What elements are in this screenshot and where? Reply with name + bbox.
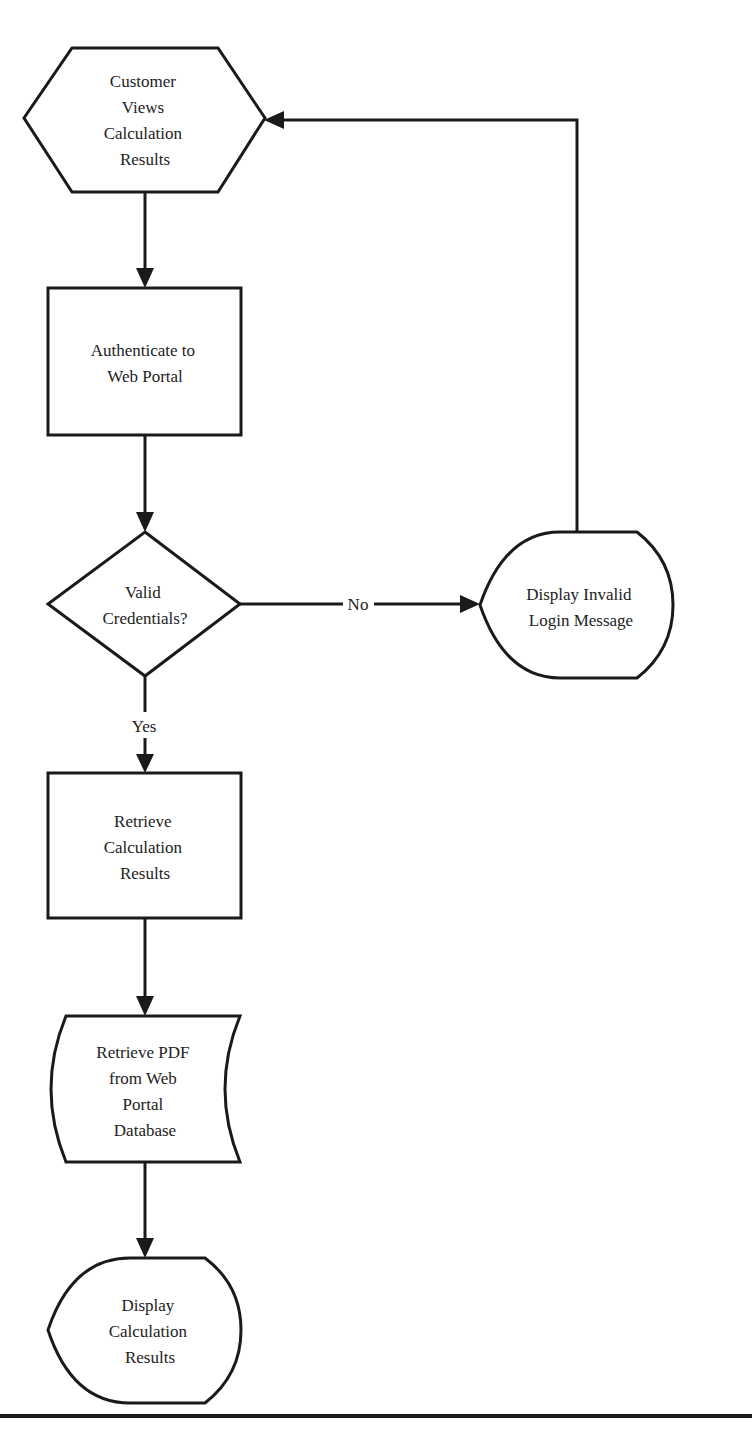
node-text-line: Results [125,1348,175,1367]
node-display-results[interactable]: Display Calculation Results [48,1258,241,1403]
node-text-line: Login Message [529,611,633,630]
node-valid-credentials[interactable]: Valid Credentials? [48,532,240,676]
node-customer-views-results[interactable]: Customer Views Calculation Results [24,48,265,192]
arrowhead-icon [136,1238,154,1258]
node-text-line: Portal [123,1095,164,1114]
edge-invalid-to-start [264,111,577,532]
node-retrieve-pdf[interactable]: Retrieve PDF from Web Portal Database [51,1016,240,1162]
edge-start-to-authenticate [136,192,154,288]
node-text-line: Valid [125,583,161,602]
arrowhead-icon [136,512,154,532]
node-text-line: Retrieve PDF [96,1043,189,1062]
node-text-line: Calculation [104,838,183,857]
edge-retrieve-to-pdf [136,918,154,1016]
process-shape [48,288,241,435]
arrowhead-icon [136,996,154,1016]
node-text-line: Display [121,1296,174,1315]
display-shape [480,532,673,678]
node-text-line: Views [122,98,164,117]
hexagon-shape [24,48,265,192]
edge-valid-to-retrieve: Yes [132,676,157,773]
node-text-line: Credentials? [103,609,188,628]
node-authenticate[interactable]: Authenticate to Web Portal [48,288,241,435]
node-text-line: Customer [110,72,176,91]
stored-data-shape [51,1016,240,1162]
arrowhead-icon [136,268,154,288]
node-text-line: Results [120,864,170,883]
node-text-line: Authenticate to [91,341,195,360]
node-text-line: from Web [109,1069,177,1088]
edge-pdf-to-display [136,1162,154,1258]
arrowhead-icon [264,111,284,129]
node-display-invalid-login[interactable]: Display Invalid Login Message [480,532,673,678]
node-text-line: Calculation [104,124,183,143]
edge-valid-to-invalid: No [240,592,480,614]
node-text-line: Retrieve [114,812,172,831]
node-retrieve-results[interactable]: Retrieve Calculation Results [48,773,241,918]
edge-authenticate-to-valid [136,435,154,532]
edge-label-yes: Yes [132,717,157,736]
node-text-line: Results [120,150,170,169]
node-text-line: Display Invalid [526,585,632,604]
node-text-line: Web Portal [107,367,183,386]
decision-shape [48,532,240,676]
flowchart-canvas: No Yes Customer Views Cal [0,0,752,1437]
node-text-line: Database [114,1121,176,1140]
arrowhead-icon [460,595,480,613]
edge-label-no: No [348,595,369,614]
arrowhead-icon [136,754,154,773]
node-text-line: Calculation [109,1322,188,1341]
